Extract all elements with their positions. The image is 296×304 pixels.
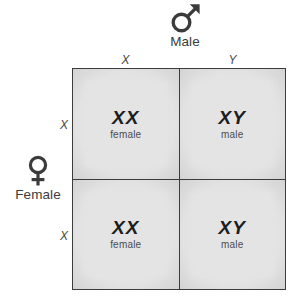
- phenotype-text: female: [110, 130, 141, 140]
- punnett-cell-content: XX female: [110, 218, 141, 250]
- genotype-text: XY: [219, 218, 246, 237]
- punnett-grid: XX female XY male XX female XY male: [72, 68, 286, 290]
- genotype-text: XX: [110, 218, 141, 237]
- punnett-cell-0-1: XY male: [180, 69, 286, 179]
- column-header-allele-1: Y: [179, 54, 286, 66]
- mars-symbol-icon: [140, 2, 230, 34]
- punnett-cell-content: XX female: [110, 108, 141, 140]
- phenotype-text: male: [219, 130, 246, 140]
- phenotype-text: male: [219, 240, 246, 250]
- venus-symbol-icon: [0, 155, 76, 187]
- punnett-cell-0-0: XX female: [73, 69, 179, 179]
- punnett-square-diagram: Male Female X Y X X XX female XY male: [0, 0, 296, 304]
- parent-label-male: Male: [140, 2, 230, 50]
- parent-label-female-text: Female: [0, 188, 76, 203]
- row-header-allele-0: X: [52, 119, 68, 131]
- punnett-cell-1-0: XX female: [73, 180, 179, 290]
- genotype-text: XX: [110, 108, 141, 127]
- parent-label-male-text: Male: [140, 35, 230, 50]
- column-header-allele-0: X: [72, 54, 179, 66]
- punnett-cell-content: XY male: [219, 108, 246, 140]
- row-header-allele-1: X: [52, 230, 68, 242]
- genotype-text: XY: [219, 108, 246, 127]
- punnett-cell-content: XY male: [219, 218, 246, 250]
- punnett-cell-1-1: XY male: [180, 180, 286, 290]
- parent-label-female: Female: [0, 155, 76, 203]
- phenotype-text: female: [110, 240, 141, 250]
